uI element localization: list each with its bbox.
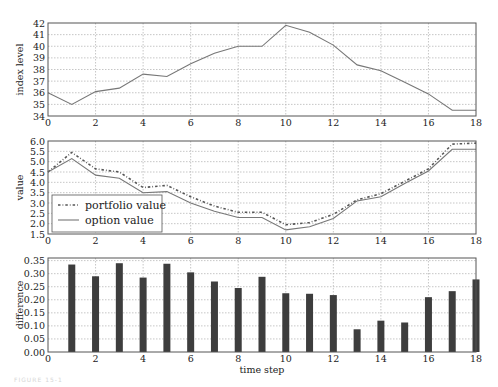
x-tick-label: 4 [140, 117, 146, 128]
y-tick-label: 4.5 [30, 167, 45, 178]
y-tick-label: 0.15 [24, 307, 45, 318]
y-tick-label: 40 [33, 41, 45, 52]
y-tick-label: 0.00 [24, 347, 45, 358]
y-tick-label: 0.05 [24, 333, 45, 344]
difference-bar [282, 293, 289, 352]
value-panel: 0246810121416181.52.02.53.03.54.04.55.05… [14, 136, 482, 247]
x-tick-label: 12 [327, 353, 339, 364]
difference-bar [259, 277, 266, 352]
y-tick-label: 42 [33, 18, 45, 29]
x-tick-label: 16 [422, 117, 434, 128]
option-legend-label: option value [85, 214, 154, 227]
y-tick-label: 5.0 [30, 156, 45, 167]
x-tick-label: 8 [235, 117, 241, 128]
x-tick-label: 0 [45, 117, 51, 128]
y-tick-label: 0.30 [24, 268, 45, 279]
x-tick-label: 10 [280, 117, 292, 128]
y-axis-label: index level [14, 44, 25, 96]
x-tick-label: 18 [470, 235, 482, 246]
difference-bar [92, 276, 99, 352]
y-tick-label: 2.5 [30, 208, 45, 219]
index-level-panel: 024681012141618343536373839404142index l… [14, 18, 482, 129]
difference-bar [401, 322, 408, 352]
index-level-line [48, 25, 476, 110]
y-tick-label: 0.10 [24, 320, 45, 331]
difference-bar [306, 294, 313, 352]
difference-bar [449, 291, 456, 352]
grid [48, 23, 476, 116]
x-tick-label: 6 [188, 353, 194, 364]
x-tick-label: 18 [470, 353, 482, 364]
x-tick-label: 8 [235, 235, 241, 246]
x-tick-label: 0 [45, 353, 51, 364]
x-tick-label: 12 [327, 235, 339, 246]
difference-bar [354, 329, 361, 352]
x-tick-label: 6 [188, 117, 194, 128]
y-tick-label: 36 [33, 87, 45, 98]
legend: portfolio valueoption value [52, 195, 166, 232]
y-tick-label: 2.0 [30, 218, 45, 229]
x-tick-label: 4 [140, 235, 146, 246]
x-tick-label: 18 [470, 117, 482, 128]
y-axis-label: difference [14, 280, 25, 329]
y-tick-label: 0.35 [24, 255, 45, 266]
x-axis-label: time step [240, 364, 285, 375]
y-axis-label: value [14, 174, 25, 201]
y-tick-label: 37 [33, 76, 45, 87]
difference-bar [116, 263, 123, 352]
y-tick-label: 0.25 [24, 281, 45, 292]
difference-bar [140, 278, 147, 352]
tick-labels: 024681012141618343536373839404142 [33, 18, 482, 129]
x-tick-label: 12 [327, 117, 339, 128]
y-tick-label: 6.0 [30, 136, 45, 147]
portfolio-legend-label: portfolio value [85, 199, 166, 212]
y-tick-label: 1.5 [30, 229, 45, 240]
x-tick-label: 14 [375, 117, 387, 128]
x-tick-label: 0 [45, 235, 51, 246]
y-tick-label: 5.5 [30, 146, 45, 157]
y-tick-label: 38 [33, 64, 45, 75]
x-tick-label: 8 [235, 353, 241, 364]
y-tick-label: 4.0 [30, 177, 45, 188]
x-tick-label: 16 [422, 353, 434, 364]
difference-bar [163, 264, 170, 352]
y-tick-label: 41 [33, 29, 45, 40]
difference-bar [235, 288, 242, 352]
difference-bar [68, 265, 75, 352]
x-tick-label: 16 [422, 235, 434, 246]
difference-bar [330, 295, 337, 352]
y-tick-label: 0.20 [24, 294, 45, 305]
difference-bar [377, 321, 384, 352]
difference-bar [425, 297, 432, 352]
x-tick-label: 2 [93, 235, 99, 246]
difference-panel: 0246810121416180.000.050.100.150.200.250… [14, 255, 482, 375]
x-tick-label: 4 [140, 353, 146, 364]
x-tick-label: 14 [375, 235, 387, 246]
x-tick-label: 14 [375, 353, 387, 364]
x-tick-label: 6 [188, 235, 194, 246]
y-tick-label: 34 [33, 111, 45, 122]
y-tick-label: 3.0 [30, 198, 45, 209]
figure-caption: FIGURE 15-1 [14, 376, 63, 383]
difference-bar [187, 272, 194, 352]
x-tick-label: 10 [280, 235, 292, 246]
y-tick-label: 39 [33, 52, 45, 63]
x-tick-label: 2 [93, 117, 99, 128]
figure: 024681012141618343536373839404142index l… [0, 0, 498, 387]
y-tick-label: 35 [33, 99, 45, 110]
x-tick-label: 10 [280, 353, 292, 364]
difference-bar [211, 282, 218, 353]
y-tick-label: 3.5 [30, 187, 45, 198]
x-tick-label: 2 [93, 353, 99, 364]
